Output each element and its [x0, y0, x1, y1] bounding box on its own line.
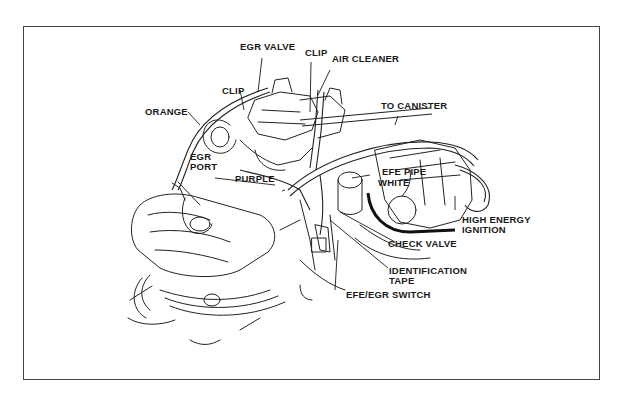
label-to-canister: TO CANISTER — [381, 100, 447, 111]
label-high-energy-line2: IGNITION — [462, 224, 506, 235]
label-clip-right: CLIP — [305, 47, 328, 58]
label-white: WHITE — [378, 177, 410, 188]
label-efe-pipe: EFE PIPE — [382, 166, 426, 177]
label-egr-valve: EGR VALVE — [240, 41, 295, 52]
labels: EGR VALVE CLIP CLIP AIR CLEANER TO CANIS… — [145, 41, 531, 300]
label-identification-line2: TAPE — [389, 275, 414, 286]
engine-diagram: EGR VALVE CLIP CLIP AIR CLEANER TO CANIS… — [0, 0, 626, 409]
engine-artwork — [128, 78, 489, 345]
label-efe-egr-switch: EFE/EGR SWITCH — [346, 289, 431, 300]
label-orange: ORANGE — [145, 106, 188, 117]
label-egr-port-line2: PORT — [190, 161, 217, 172]
label-check-valve: CHECK VALVE — [388, 238, 457, 249]
label-purple: PURPLE — [235, 173, 275, 184]
label-clip-left: CLIP — [222, 85, 245, 96]
label-air-cleaner: AIR CLEANER — [332, 53, 399, 64]
